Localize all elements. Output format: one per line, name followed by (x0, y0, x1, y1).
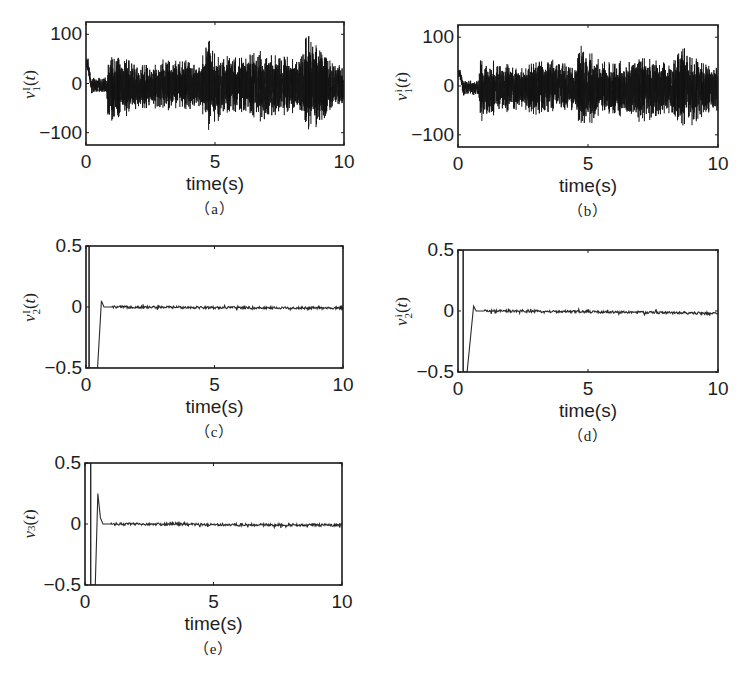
x-tick-label: 5 (194, 592, 234, 611)
x-tick-label: 0 (65, 592, 105, 611)
x-tick-label: 10 (322, 592, 362, 611)
subplot-caption: （e） (174, 637, 254, 658)
x-axis-label: time(s) (154, 614, 274, 634)
plot-area-e (0, 0, 738, 685)
signal-trace (85, 463, 342, 585)
y-tick-label: 0.5 (25, 453, 81, 472)
y-axis-label: v3(t) (20, 484, 40, 564)
